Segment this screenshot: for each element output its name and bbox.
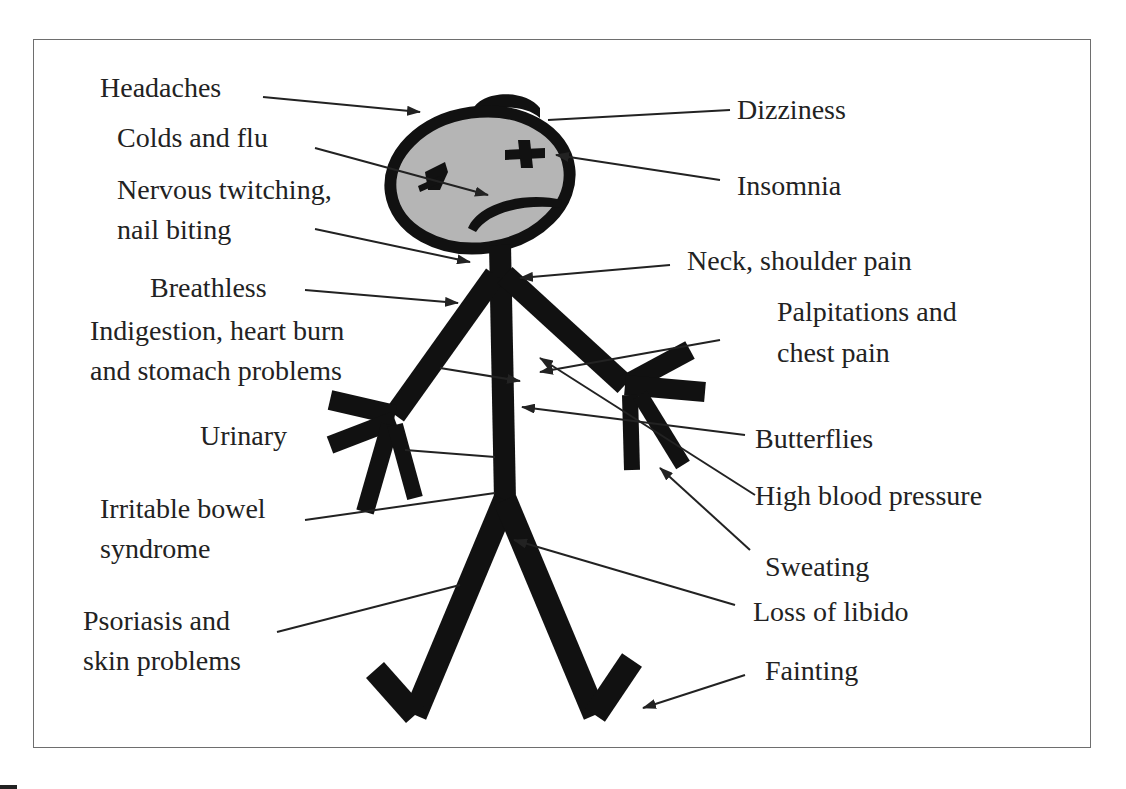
left-arm bbox=[395, 275, 495, 415]
label-butterflies: Butterflies bbox=[755, 423, 873, 455]
label-psoriasis-line1: Psoriasis and bbox=[83, 605, 230, 637]
label-sweating: Sweating bbox=[765, 551, 869, 583]
right-foot bbox=[595, 660, 632, 715]
label-ibs-line2: syndrome bbox=[100, 533, 210, 565]
label-dizziness: Dizziness bbox=[737, 94, 846, 126]
label-high-blood-pressure: High blood pressure bbox=[755, 480, 982, 512]
right-leg bbox=[505, 500, 595, 715]
arrow-headaches bbox=[263, 97, 420, 112]
left-foot bbox=[375, 670, 415, 715]
label-headaches: Headaches bbox=[100, 72, 221, 104]
line-urinary bbox=[405, 450, 495, 457]
label-nervous-line2: nail biting bbox=[117, 214, 231, 246]
arrow-fainting bbox=[643, 675, 745, 708]
left-finger-1 bbox=[330, 400, 395, 415]
label-colds-flu: Colds and flu bbox=[117, 122, 268, 154]
arrow-insomnia bbox=[556, 155, 720, 180]
stick-figure bbox=[330, 94, 705, 715]
label-indigestion-line1: Indigestion, heart burn bbox=[90, 315, 344, 347]
label-neck-shoulder: Neck, shoulder pain bbox=[687, 245, 912, 277]
label-fainting: Fainting bbox=[765, 655, 858, 687]
label-loss-of-libido: Loss of libido bbox=[753, 596, 909, 628]
label-indigestion-line2: and stomach problems bbox=[90, 355, 342, 387]
right-finger-2 bbox=[625, 385, 705, 392]
right-finger-3 bbox=[630, 395, 632, 470]
line-dizziness bbox=[548, 110, 730, 120]
label-nervous-line1: Nervous twitching, bbox=[117, 174, 332, 206]
head bbox=[381, 100, 578, 260]
label-palpitations-line1: Palpitations and bbox=[777, 296, 957, 328]
label-urinary: Urinary bbox=[200, 420, 287, 452]
left-finger-4 bbox=[395, 425, 415, 498]
label-ibs-line1: Irritable bowel bbox=[100, 493, 266, 525]
label-breathless: Breathless bbox=[150, 272, 267, 304]
left-leg bbox=[415, 500, 505, 715]
arrow-neck bbox=[520, 265, 670, 278]
arrow-breathless bbox=[305, 290, 458, 303]
arrow-sweating bbox=[660, 468, 750, 550]
label-insomnia: Insomnia bbox=[737, 170, 841, 202]
line-psoriasis bbox=[277, 585, 460, 632]
line-ibs bbox=[305, 493, 495, 520]
label-psoriasis-line2: skin problems bbox=[83, 645, 241, 677]
label-palpitations-line2: chest pain bbox=[777, 337, 890, 369]
right-finger-4 bbox=[640, 395, 683, 465]
